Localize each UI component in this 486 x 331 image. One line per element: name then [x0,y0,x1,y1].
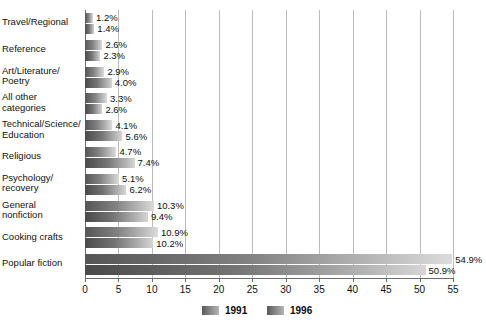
bar-1991 [85,93,107,103]
legend-item-1991[interactable]: 1991 [202,305,247,316]
category-label: Psychology/ recovery [2,173,80,194]
bar-1996 [85,158,135,168]
bars-layer: 1.2%1.4%2.6%2.3%2.9%4.0%3.3%2.6%4.1%5.6%… [85,10,453,278]
bar-1991 [85,40,102,50]
legend-swatch-icon [267,306,284,315]
bar-1991 [85,67,104,77]
legend-label: 1991 [225,305,247,316]
bar-1991 [85,147,116,157]
legend-label: 1996 [290,305,312,316]
bar-1996 [85,265,426,275]
x-tick-label: 55 [447,284,458,296]
bar-value-label: 4.0% [115,78,137,88]
bar-value-label: 5.1% [122,174,144,184]
x-tick [453,278,454,282]
bar-value-label: 1.2% [96,13,118,23]
x-tick-label: 45 [381,284,392,296]
bar-1996 [85,131,122,141]
bar-value-label: 3.3% [110,94,132,104]
x-tick [319,278,320,282]
x-tick [353,278,354,282]
bar-value-label: 2.6% [105,105,127,115]
bar-value-label: 54.9% [455,255,482,265]
x-tick-label: 15 [180,284,191,296]
x-tick-label: 50 [414,284,425,296]
bar-value-label: 10.9% [161,228,188,238]
x-tick [152,278,153,282]
bar-value-label: 50.9% [429,266,456,276]
x-tick-label: 40 [347,284,358,296]
bar-1996 [85,212,148,222]
gridline-55 [453,10,454,278]
bar-chart: Travel/RegionalReferenceArt/Literature/ … [0,0,486,331]
bar-1996 [85,78,112,88]
bar-value-label: 2.3% [103,51,125,61]
bar-1991 [85,174,119,184]
bar-1996 [85,24,94,34]
bar-1991 [85,227,158,237]
x-tick [420,278,421,282]
legend-item-1996[interactable]: 1996 [267,305,312,316]
x-tick [85,278,86,282]
category-label: Popular fiction [2,258,80,269]
x-tick-label: 0 [82,284,88,296]
x-tick [185,278,186,282]
x-tick-label: 5 [116,284,122,296]
bar-1996 [85,51,100,61]
bar-1996 [85,185,126,195]
category-label: Art/Literature/ Poetry [2,66,80,87]
bar-1996 [85,238,153,248]
x-tick-label: 35 [314,284,325,296]
bar-1991 [85,254,452,264]
bar-value-label: 10.2% [156,239,183,249]
bar-value-label: 5.6% [125,132,147,142]
plot-area: 1.2%1.4%2.6%2.3%2.9%4.0%3.3%2.6%4.1%5.6%… [85,10,453,278]
x-tick-label: 10 [146,284,157,296]
category-label: Travel/Regional [2,17,80,28]
x-tick-label: 25 [247,284,258,296]
bar-value-label: 9.4% [151,212,173,222]
chart-legend: 19911996 [0,305,486,321]
bar-value-label: 4.1% [115,121,137,131]
bar-1991 [85,201,154,211]
bar-value-label: 4.7% [119,147,141,157]
x-axis: 0510152025303540455055 [85,278,453,300]
x-tick [118,278,119,282]
bar-value-label: 2.9% [107,67,129,77]
bar-value-label: 1.4% [97,24,119,34]
bar-value-label: 10.3% [157,201,184,211]
bar-1991 [85,120,112,130]
x-tick [252,278,253,282]
bar-1991 [85,13,93,23]
category-label: All other categories [2,92,80,113]
category-label: Reference [2,44,80,55]
category-label: General nonfiction [2,200,80,221]
category-axis: Travel/RegionalReferenceArt/Literature/ … [0,10,84,278]
bar-value-label: 6.2% [129,185,151,195]
x-tick-label: 30 [280,284,291,296]
x-tick [286,278,287,282]
x-tick [386,278,387,282]
bar-value-label: 7.4% [138,158,160,168]
category-label: Cooking crafts [2,232,80,243]
x-tick-label: 20 [213,284,224,296]
bar-value-label: 2.6% [105,40,127,50]
x-axis-line [85,278,453,279]
legend-swatch-icon [202,306,219,315]
category-label: Religious [2,151,80,162]
bar-1996 [85,104,102,114]
x-tick [219,278,220,282]
category-label: Technical/Science/ Education [2,119,80,140]
